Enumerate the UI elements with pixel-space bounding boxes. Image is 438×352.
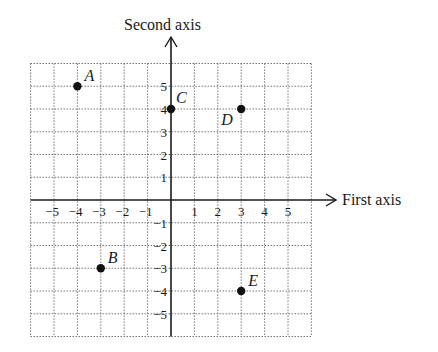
point-marker-icon	[73, 82, 81, 90]
x-tick-label: −3	[92, 204, 106, 219]
x-tick-label: −1	[139, 204, 153, 219]
x-tick-label: −4	[69, 204, 83, 219]
point-c: C	[167, 89, 187, 113]
x-tick-label: −5	[45, 204, 59, 219]
x-tick-label: −2	[115, 204, 129, 219]
point-marker-icon	[237, 287, 245, 295]
x-tick-label: 5	[285, 204, 292, 219]
x-tick-label: 3	[238, 204, 245, 219]
y-tick-label: 2	[161, 148, 168, 163]
y-axis-label: Second axis	[124, 16, 201, 33]
y-tick-label: −3	[153, 261, 167, 276]
point-a: A	[73, 67, 94, 90]
y-tick-label: 4	[161, 102, 168, 117]
point-label: C	[176, 89, 187, 106]
y-tick-label: −2	[153, 239, 167, 254]
axes	[31, 37, 336, 337]
y-tick-label: −4	[153, 284, 167, 299]
point-marker-icon	[237, 105, 245, 113]
x-tick-label: 2	[215, 204, 222, 219]
point-label: B	[108, 249, 118, 266]
y-tick-label: −1	[153, 216, 167, 231]
point-marker-icon	[97, 264, 105, 272]
point-b: B	[97, 249, 118, 272]
coordinate-plane: −5−4−3−2−11234554321−1−2−3−4−5 ABCDE Fir…	[0, 0, 438, 352]
point-label: D	[220, 111, 233, 128]
y-tick-label: 5	[161, 79, 168, 94]
x-axis-label: First axis	[342, 191, 401, 208]
point-e: E	[237, 272, 258, 295]
x-tick-label: 4	[261, 204, 268, 219]
point-label: A	[83, 67, 94, 84]
point-label: E	[247, 272, 258, 289]
y-tick-label: −5	[153, 307, 167, 322]
y-tick-label: 3	[161, 125, 168, 140]
y-tick-label: 1	[161, 170, 168, 185]
x-tick-label: 1	[191, 204, 198, 219]
point-marker-icon	[167, 105, 175, 113]
